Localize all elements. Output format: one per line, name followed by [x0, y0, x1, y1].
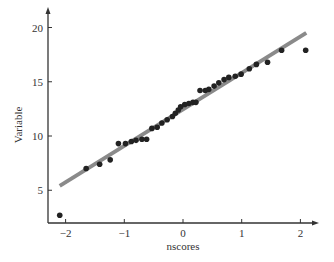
- data-point: [206, 87, 212, 93]
- y-tick-label: 15: [32, 76, 44, 88]
- data-point: [129, 139, 135, 145]
- reference-line-segment: [60, 33, 307, 186]
- data-point: [193, 100, 199, 106]
- x-tick-label: 2: [298, 227, 304, 239]
- x-axis-title: nscores: [167, 240, 200, 252]
- data-point: [154, 125, 160, 131]
- y-axis-arrow-icon: [46, 7, 51, 14]
- data-point: [144, 136, 150, 142]
- y-ticks: 5101520: [32, 22, 52, 197]
- data-point: [159, 120, 165, 126]
- x-tick-label: 0: [180, 227, 186, 239]
- x-axis-arrow-icon: [312, 221, 319, 226]
- data-point: [303, 47, 309, 53]
- x-tick-label: −1: [118, 227, 130, 239]
- axes: [46, 7, 320, 226]
- data-point: [226, 75, 232, 81]
- y-axis-title: Variable: [12, 107, 24, 144]
- data-point: [216, 80, 222, 86]
- data-point: [211, 83, 217, 89]
- normal-probability-plot: −2−1012 5101520 nscores Variable: [0, 0, 334, 262]
- x-tick-label: 1: [239, 227, 245, 239]
- data-point: [149, 126, 155, 132]
- data-point: [197, 88, 203, 94]
- y-tick-label: 20: [32, 22, 44, 34]
- data-point: [247, 66, 253, 72]
- data-points: [57, 47, 309, 218]
- reference-line: [60, 33, 307, 186]
- data-point: [83, 166, 89, 172]
- data-point: [57, 212, 63, 218]
- data-point: [232, 74, 238, 80]
- data-point: [97, 161, 103, 167]
- data-point: [238, 71, 244, 77]
- y-tick-label: 10: [32, 130, 44, 142]
- data-point: [107, 157, 113, 163]
- data-point: [265, 59, 271, 65]
- data-point: [116, 141, 122, 147]
- x-ticks: −2−1012: [60, 219, 303, 239]
- data-point: [133, 138, 139, 144]
- data-point: [123, 141, 129, 147]
- y-tick-label: 5: [38, 184, 44, 196]
- x-tick-label: −2: [60, 227, 72, 239]
- data-point: [164, 117, 170, 123]
- data-point: [279, 47, 285, 53]
- data-point: [254, 62, 260, 68]
